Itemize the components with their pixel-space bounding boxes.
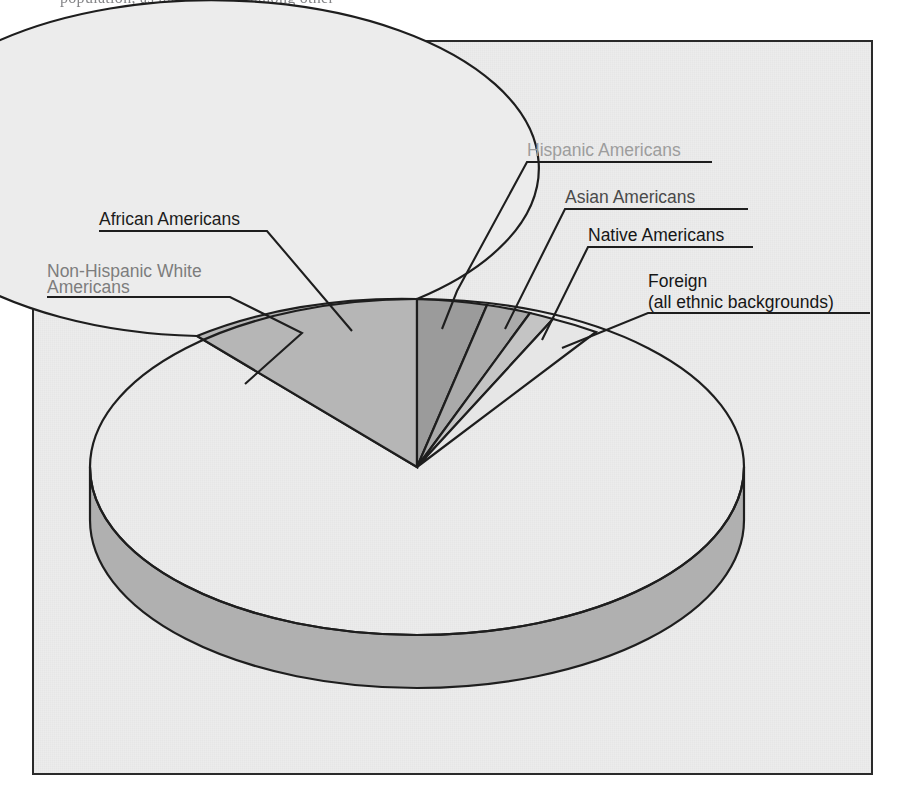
label-foreign-line1: Foreign xyxy=(648,271,707,291)
pie-3d-side xyxy=(90,467,744,688)
pie-side-band xyxy=(90,467,744,688)
label-hispanic-americans: Hispanic Americans xyxy=(527,140,681,160)
page-root: population, as measured by, among other xyxy=(0,0,905,810)
label-african-americans: African Americans xyxy=(99,209,240,229)
label-native-americans: Native Americans xyxy=(588,225,724,245)
pie-chart-svg: Non-Hispanic White Americans African Ame… xyxy=(0,0,905,810)
label-asian-americans: Asian Americans xyxy=(565,187,696,207)
label-non-hispanic-white-americans-line2: Americans xyxy=(47,277,130,297)
slice-african-americans[interactable] xyxy=(197,299,417,467)
label-foreign-line2: (all ethnic backgrounds) xyxy=(648,292,834,312)
